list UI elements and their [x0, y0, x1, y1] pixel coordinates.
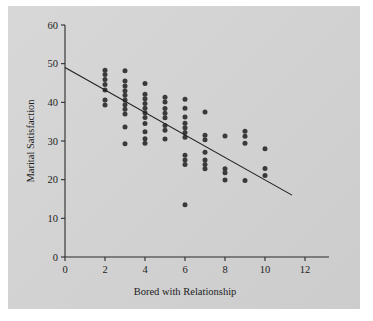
- data-point: [103, 72, 108, 77]
- y-axis-tick-label: 0: [53, 252, 58, 263]
- data-point: [163, 137, 168, 142]
- data-point: [163, 106, 168, 111]
- data-point: [103, 82, 108, 87]
- data-point: [203, 166, 208, 171]
- y-axis-title: Marital Satisfaction: [25, 99, 36, 183]
- data-point: [263, 146, 268, 151]
- data-point: [103, 98, 108, 103]
- data-point: [123, 93, 128, 98]
- data-point: [123, 84, 128, 89]
- data-point: [203, 150, 208, 155]
- data-point: [143, 96, 148, 101]
- y-axis-tick-label: 50: [48, 58, 59, 69]
- data-point: [103, 77, 108, 82]
- x-axis-tick-label: 6: [182, 264, 187, 275]
- data-point: [183, 121, 188, 126]
- data-point: [143, 115, 148, 120]
- x-axis-tick-label: 2: [102, 264, 107, 275]
- data-point: [203, 133, 208, 138]
- data-point: [183, 162, 188, 167]
- data-point: [123, 68, 128, 73]
- regression-line-group: [65, 68, 292, 196]
- data-point: [123, 79, 128, 84]
- data-point: [203, 157, 208, 162]
- data-point: [183, 202, 188, 207]
- data-point: [163, 111, 168, 116]
- x-axis-tick-label: 10: [260, 264, 271, 275]
- data-point: [143, 92, 148, 97]
- axis-labels-group: Bored with RelationshipMarital Satisfact…: [25, 99, 236, 297]
- x-axis-tick-label: 12: [300, 264, 311, 275]
- x-axis-tick-label: 0: [62, 264, 67, 275]
- data-point: [203, 110, 208, 115]
- data-point: [123, 125, 128, 130]
- x-axis-tick-label: 4: [142, 264, 148, 275]
- data-point: [163, 95, 168, 100]
- data-point: [183, 153, 188, 158]
- data-point: [243, 134, 248, 139]
- data-point: [163, 115, 168, 120]
- data-point: [223, 170, 228, 175]
- scatter-plot-figure: 0102030405060024681012 Bored with Relati…: [0, 0, 373, 321]
- y-axis-tick-label: 10: [48, 213, 59, 224]
- data-point: [223, 133, 228, 138]
- data-point: [123, 107, 128, 112]
- data-point: [183, 125, 188, 130]
- data-points-group: [103, 68, 268, 208]
- scatter-chart: 0102030405060024681012 Bored with Relati…: [0, 0, 373, 321]
- data-point: [103, 103, 108, 108]
- x-axis-title: Bored with Relationship: [134, 286, 237, 297]
- axes-group: 0102030405060024681012: [48, 20, 330, 275]
- data-point: [143, 106, 148, 111]
- data-point: [243, 178, 248, 183]
- data-point: [163, 128, 168, 133]
- data-point: [143, 121, 148, 126]
- y-axis-tick-label: 60: [48, 20, 59, 31]
- regression-line: [65, 68, 292, 196]
- y-axis-tick-label: 20: [48, 174, 59, 185]
- data-point: [203, 137, 208, 142]
- data-point: [223, 178, 228, 183]
- x-axis-tick-label: 8: [222, 264, 227, 275]
- data-point: [243, 129, 248, 134]
- data-point: [123, 141, 128, 146]
- data-point: [263, 173, 268, 178]
- y-axis-tick-label: 30: [48, 136, 59, 147]
- data-point: [183, 157, 188, 162]
- data-point: [143, 101, 148, 106]
- data-point: [183, 115, 188, 120]
- data-point: [143, 81, 148, 86]
- data-point: [123, 102, 128, 107]
- data-point: [243, 141, 248, 146]
- data-point: [123, 88, 128, 93]
- data-point: [263, 166, 268, 171]
- data-point: [143, 141, 148, 146]
- data-point: [143, 136, 148, 141]
- data-point: [143, 129, 148, 134]
- y-axis-tick-label: 40: [48, 97, 59, 108]
- data-point: [183, 97, 188, 102]
- data-point: [183, 106, 188, 111]
- data-point: [163, 99, 168, 104]
- data-point: [123, 111, 128, 116]
